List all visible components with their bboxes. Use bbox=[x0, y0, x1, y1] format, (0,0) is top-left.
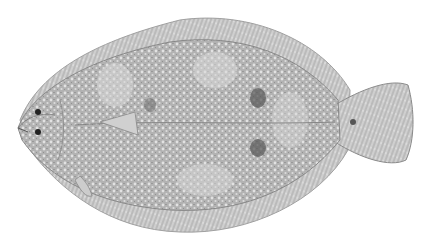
dark-blotch bbox=[250, 139, 266, 157]
eye-icon bbox=[35, 129, 41, 135]
fish-illustration: Grayscale scientific illustration of a f… bbox=[0, 0, 425, 244]
eye-icon bbox=[35, 109, 41, 115]
dark-blotch bbox=[250, 88, 266, 108]
